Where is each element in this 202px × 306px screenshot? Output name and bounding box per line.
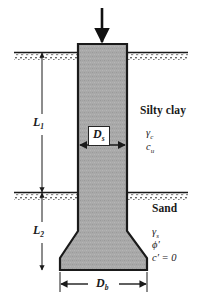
soil-label-sand: Sand (152, 203, 177, 215)
drilled-shaft-diagram: Silty clay γc cu Sand γs ϕ′ c′ = 0 L1 L2… (0, 0, 202, 306)
label-Db: Db (96, 277, 108, 292)
sand-text: Sand (152, 202, 177, 214)
drilled-shaft-body (60, 44, 147, 270)
param-clay-unit-weight: γc (146, 128, 153, 141)
label-L2: L2 (33, 224, 44, 239)
label-L1: L1 (33, 116, 44, 131)
param-clay-undrained-shear: cu (146, 142, 154, 155)
param-sand-friction-angle: ϕ′ (152, 240, 160, 251)
silty-clay-text: Silty clay (140, 104, 186, 116)
soil-label-silty-clay: Silty clay (140, 105, 186, 117)
label-Ds: Ds (88, 126, 110, 146)
param-sand-cohesion: c′ = 0 (152, 253, 177, 264)
